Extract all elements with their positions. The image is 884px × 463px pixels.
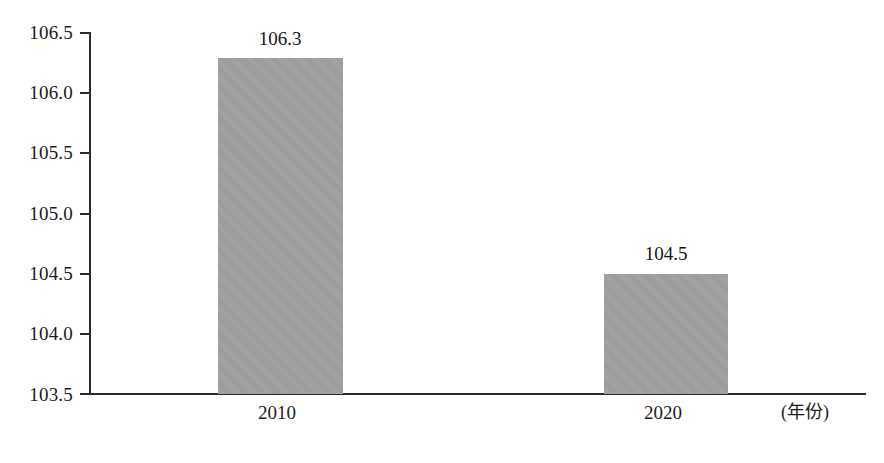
y-axis-tick-mark (80, 152, 90, 154)
plot-area: 106.5 106.0 105.5 105.0 104.5 104.0 103.… (0, 0, 884, 463)
y-axis-tick-mark (80, 213, 90, 215)
bar-2020 (604, 274, 728, 394)
bar-value-label-2010: 106.3 (210, 29, 350, 48)
bar-chart-figure: 106.5 106.0 105.5 105.0 104.5 104.0 103.… (0, 0, 884, 463)
y-axis-tick-mark (80, 393, 90, 395)
y-axis-tick-label: 104.0 (1, 324, 73, 343)
y-axis-tick-label: 103.5 (1, 385, 73, 404)
y-axis-tick-label: 106.0 (1, 83, 73, 102)
y-axis-tick-label: 104.5 (1, 264, 73, 283)
x-axis-line (89, 393, 866, 395)
y-axis-tick-mark (80, 32, 90, 34)
y-axis-tick-label: 105.5 (1, 143, 73, 162)
scan-caption (0, 452, 884, 463)
y-axis-tick-mark (80, 92, 90, 94)
x-axis-tick-label-2020: 2020 (593, 403, 733, 422)
x-axis-unit-label: (年份) (781, 403, 877, 422)
y-axis-tick-label: 105.0 (1, 204, 73, 223)
y-axis-tick-label: 106.5 (1, 23, 73, 42)
y-axis-tick-mark (80, 273, 90, 275)
x-axis-tick-label-2010: 2010 (207, 403, 347, 422)
y-axis-tick-mark (80, 333, 90, 335)
bar-value-label-2020: 104.5 (596, 244, 736, 263)
bar-2010 (218, 58, 343, 394)
